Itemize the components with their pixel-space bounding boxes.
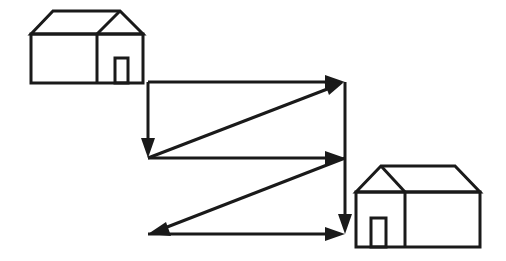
arrow-head-icon xyxy=(325,227,345,241)
arrow-head-icon xyxy=(324,81,343,95)
start-house xyxy=(31,11,143,83)
path-arrows xyxy=(141,75,352,241)
end-house-roof xyxy=(356,166,480,192)
arrow-diagonal-down-left xyxy=(162,158,345,229)
zigzag-path-diagram xyxy=(0,0,506,261)
end-house xyxy=(356,166,480,247)
arrow-diagonal-up-right xyxy=(148,88,330,158)
end-house-gable-line xyxy=(381,166,405,192)
arrow-head-icon xyxy=(338,214,352,234)
end-house-door xyxy=(371,218,386,247)
start-house-gable-line xyxy=(97,11,120,34)
start-house-roof xyxy=(31,11,143,34)
start-house-door xyxy=(115,58,128,83)
